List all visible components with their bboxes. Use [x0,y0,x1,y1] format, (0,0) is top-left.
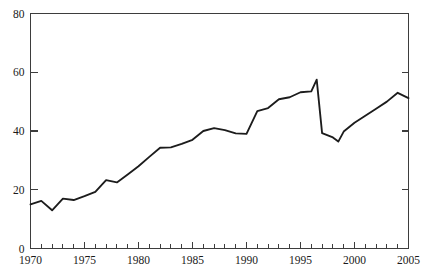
plot-frame [31,14,409,249]
data-line-1 [31,80,409,211]
x-tick-label: 1995 [289,254,312,266]
data-series-group [31,80,409,211]
x-tick-label: 2000 [343,254,366,266]
line-chart: 020406080 197019751980198519901995200020… [0,0,427,276]
y-axis-tick-labels: 020406080 [13,8,25,255]
chart-canvas: 020406080 197019751980198519901995200020… [0,0,427,276]
x-tick-label: 1975 [73,254,96,266]
y-tick-label: 40 [13,125,25,137]
x-tick-label: 1990 [235,254,258,266]
x-tick-label: 1985 [181,254,204,266]
x-tick-label: 1970 [19,254,42,266]
y-tick-label: 60 [13,66,25,78]
y-tick-label: 80 [13,8,25,20]
y-axis-ticks [31,14,409,190]
y-tick-label: 20 [13,184,25,196]
x-axis-ticks [31,242,409,249]
x-axis-minor-ticks [41,244,397,249]
x-tick-label: 1980 [127,254,150,266]
x-tick-label: 2005 [397,254,420,266]
x-axis-tick-labels: 19701975198019851990199520002005 [19,254,420,266]
